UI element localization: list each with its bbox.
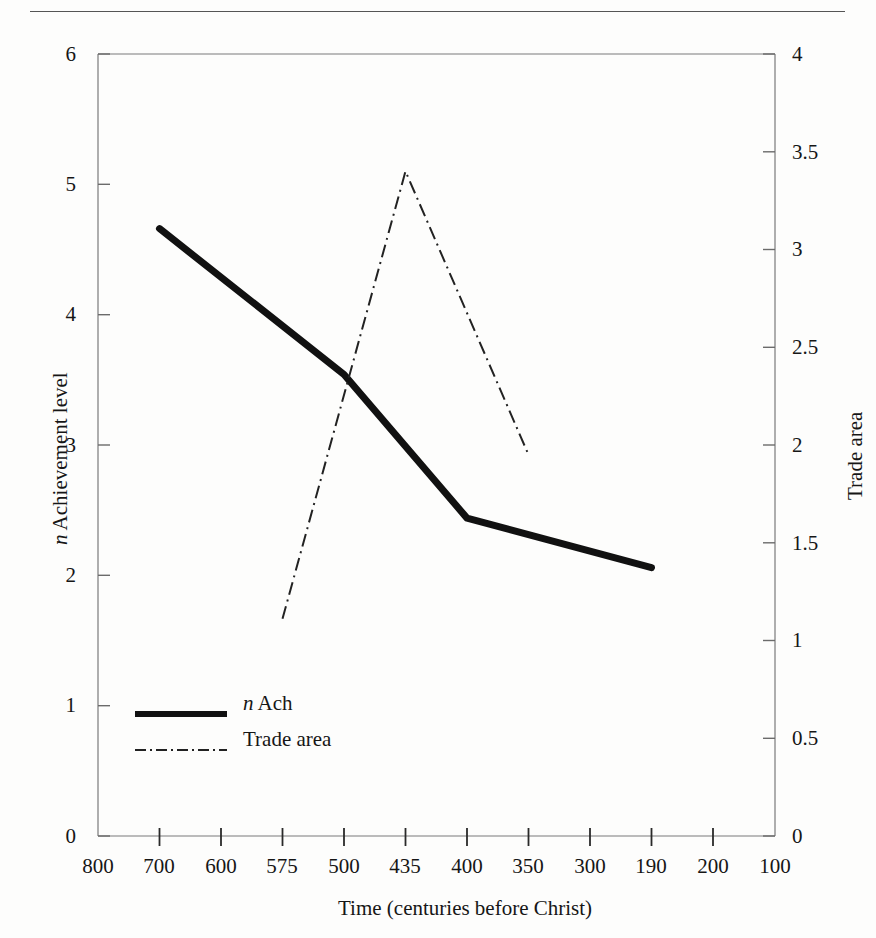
- legend-label-n-ach: n Ach: [243, 691, 293, 716]
- x-tick-350: 350: [498, 856, 558, 877]
- y-right-ticks: [763, 54, 775, 836]
- y-right-tick-2-5: 2.5: [792, 337, 818, 358]
- x-tick-200: 200: [683, 856, 743, 877]
- chart-figure: 0 1 2 3 4 5 6 0 0.5 1 1.5 2 2.5 3 3.5 4 …: [0, 0, 876, 938]
- chart-legend: n Ach Trade area: [135, 688, 395, 760]
- x-tick-190: 190: [621, 856, 681, 877]
- y-right-tick-0-5: 0.5: [792, 728, 818, 749]
- y-left-tick-4: 4: [48, 304, 76, 325]
- legend-item-trade-area: Trade area: [135, 724, 395, 760]
- legend-label-n-ach-rest: Ach: [254, 691, 293, 715]
- y-right-tick-4: 4: [792, 44, 803, 65]
- y-right-tick-1: 1: [792, 630, 803, 651]
- series-trade-area-line: [283, 171, 529, 619]
- x-axis-title: Time (centuries before Christ): [338, 896, 592, 921]
- x-tick-500: 500: [314, 856, 374, 877]
- x-tick-435: 435: [375, 856, 435, 877]
- y-left-tick-2: 2: [48, 565, 76, 586]
- y-left-tick-1: 1: [48, 695, 76, 716]
- y-right-tick-1-5: 1.5: [792, 533, 818, 554]
- y-left-tick-0: 0: [48, 826, 76, 847]
- y-left-axis-title-rest: Achievement level: [48, 372, 72, 534]
- series-n-ach-line: [160, 229, 652, 568]
- x-tick-575: 575: [252, 856, 312, 877]
- legend-item-n-ach: n Ach: [135, 688, 395, 724]
- y-right-tick-3: 3: [792, 239, 803, 260]
- y-right-tick-0: 0: [792, 826, 803, 847]
- y-right-tick-2: 2: [792, 435, 803, 456]
- legend-label-italic-n: n: [243, 691, 254, 715]
- y-left-axis-title: n Achievement level: [48, 372, 73, 545]
- legend-key-dash-dot-line: [135, 739, 227, 745]
- y-left-axis-title-italic-n: n: [48, 535, 72, 546]
- y-right-axis-title: Trade area: [843, 412, 868, 500]
- x-ticks: [160, 828, 714, 846]
- x-tick-100: 100: [745, 856, 805, 877]
- y-left-ticks: [98, 54, 110, 836]
- chart-plot-area: [0, 0, 876, 938]
- x-tick-400: 400: [437, 856, 497, 877]
- legend-key-solid-line: [135, 703, 227, 709]
- x-tick-600: 600: [191, 856, 251, 877]
- x-tick-800: 800: [68, 856, 128, 877]
- y-left-tick-5: 5: [48, 174, 76, 195]
- y-right-tick-3-5: 3.5: [792, 142, 818, 163]
- y-left-tick-6: 6: [48, 44, 76, 65]
- x-tick-700: 700: [129, 856, 189, 877]
- x-tick-300: 300: [560, 856, 620, 877]
- legend-label-trade-area: Trade area: [243, 727, 331, 752]
- page-canvas: 0 1 2 3 4 5 6 0 0.5 1 1.5 2 2.5 3 3.5 4 …: [0, 0, 876, 938]
